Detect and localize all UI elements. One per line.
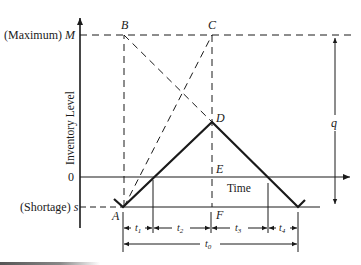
dashed-A-C	[124, 35, 212, 207]
t1-label: t1	[135, 222, 141, 235]
t4-label: t4	[279, 222, 286, 235]
max-tick-label: (Maximum) M	[4, 28, 76, 42]
point-E-label: E	[215, 162, 224, 176]
inventory-curve	[114, 122, 305, 207]
point-A-label: A	[111, 209, 120, 223]
point-B-label: B	[121, 18, 129, 32]
t2-label: t2	[177, 222, 184, 235]
point-F-label: F	[215, 208, 224, 222]
y-axis-label: Inventory Level	[64, 91, 77, 165]
q-label: q	[331, 116, 337, 130]
shortage-tick-label: (Shortage) s	[20, 200, 79, 214]
t3-label: t3	[235, 222, 242, 235]
point-D-label: D	[215, 111, 225, 125]
dashed-B-D	[124, 35, 212, 122]
zero-tick-label: 0	[68, 170, 74, 184]
point-C-label: C	[208, 18, 217, 32]
t0-label: t0	[205, 238, 212, 251]
inventory-diagram: (Maximum) M 0 (Shortage) s Inventory Lev…	[0, 0, 361, 265]
x-axis-label: Time	[227, 182, 251, 194]
